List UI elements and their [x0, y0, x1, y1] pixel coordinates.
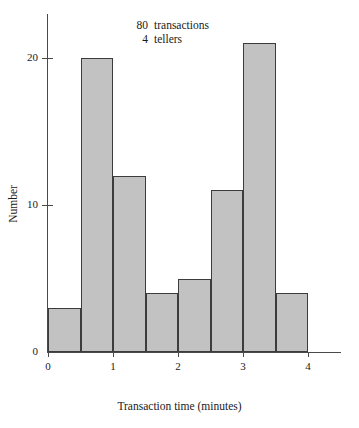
y-tick-label-0: 0 — [0, 346, 38, 357]
histogram-bar — [48, 308, 81, 352]
annotation-tellers-label: tellers — [148, 32, 182, 46]
histogram-bar — [211, 190, 244, 352]
y-axis-title: Number — [7, 174, 19, 234]
chart-annotation: 80transactions 4tellers — [128, 18, 209, 46]
x-tick-label-1: 1 — [98, 360, 128, 372]
histogram-figure: 20 10 0 0 1 2 3 4 80transactions 4teller… — [0, 0, 359, 428]
x-axis-line — [47, 352, 341, 353]
histogram-bar — [243, 43, 276, 352]
x-axis-title: Transaction time (minutes) — [0, 400, 359, 412]
x-tick-0 — [48, 352, 49, 357]
annotation-transactions-label: transactions — [148, 18, 209, 32]
histogram-bar — [113, 176, 146, 352]
annotation-line-tellers: 4tellers — [128, 32, 209, 46]
y-tick-label-10: 10 — [0, 199, 38, 210]
x-tick-3 — [243, 352, 244, 357]
y-tick-label-20: 20 — [0, 52, 38, 63]
x-tick-4 — [308, 352, 309, 357]
x-tick-label-4: 4 — [293, 360, 323, 372]
x-tick-label-0: 0 — [33, 360, 63, 372]
histogram-bar — [146, 293, 179, 352]
x-tick-1 — [113, 352, 114, 357]
x-tick-label-2: 2 — [163, 360, 193, 372]
x-tick-label-3: 3 — [228, 360, 258, 372]
histogram-bar — [81, 58, 114, 352]
histogram-bar — [178, 279, 211, 352]
histogram-bar — [276, 293, 309, 352]
annotation-tellers-count: 4 — [128, 32, 148, 46]
histogram-bars — [48, 14, 308, 352]
x-tick-2 — [178, 352, 179, 357]
annotation-line-transactions: 80transactions — [128, 18, 209, 32]
annotation-transactions-count: 80 — [128, 18, 148, 32]
